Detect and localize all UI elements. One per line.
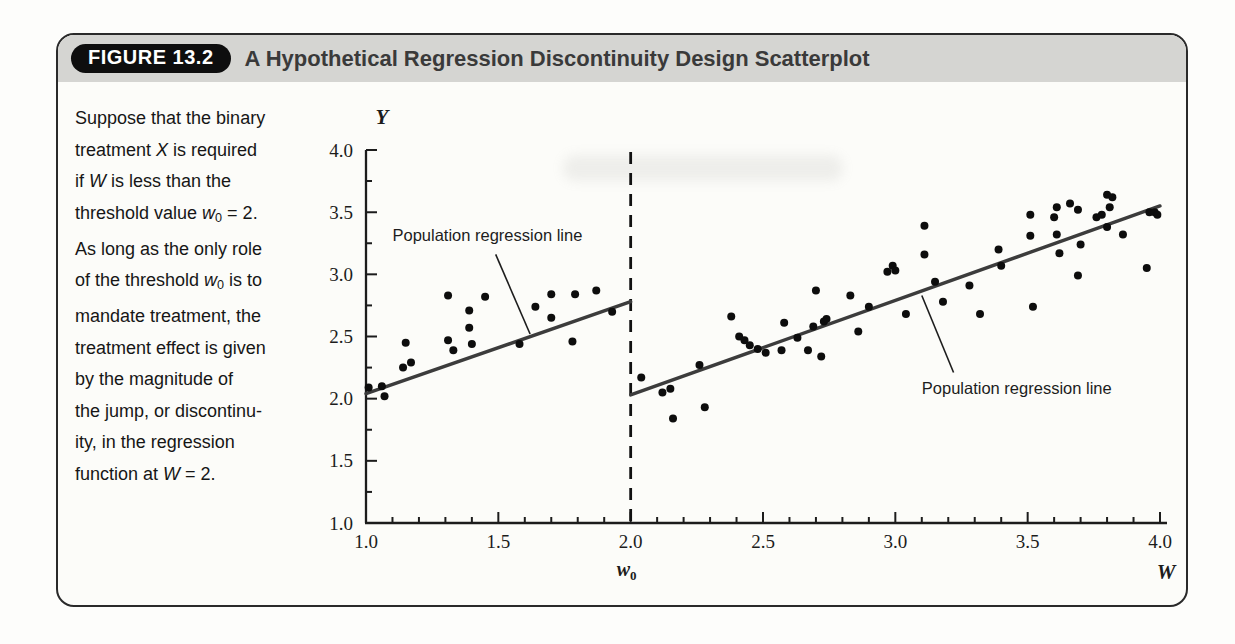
figure-title: A Hypothetical Regression Discontinuity …	[245, 46, 870, 72]
scatter-point	[931, 278, 939, 286]
scatter-point	[1108, 193, 1116, 201]
caption-segment: w	[204, 270, 217, 290]
scatter-point	[669, 415, 677, 423]
x-tick-label: 4.0	[1148, 531, 1172, 552]
scatter-point	[727, 313, 735, 321]
scatter-point	[571, 290, 579, 298]
scatter-point	[637, 374, 645, 382]
scatter-point	[1029, 303, 1037, 311]
scatter-point	[531, 303, 539, 311]
scatter-point	[1153, 211, 1161, 219]
annotation-pointer-1	[922, 295, 954, 372]
scatter-point	[378, 382, 386, 390]
y-tick-label: 2.0	[329, 388, 353, 409]
figure-number-badge: FIGURE 13.2	[71, 44, 231, 73]
scatter-point	[547, 314, 555, 322]
x-tick-label: 1.5	[486, 531, 510, 552]
y-tick-label: 1.0	[329, 513, 353, 534]
x-tick-label: 3.5	[1016, 531, 1040, 552]
scatter-point	[465, 324, 473, 332]
scatter-point	[666, 385, 674, 393]
scatter-point	[1050, 213, 1058, 221]
scatter-point	[804, 346, 812, 354]
scatter-point	[444, 291, 452, 299]
scatter-point	[854, 328, 862, 336]
scatter-point	[1119, 231, 1127, 239]
y-tick-label: 3.0	[329, 264, 353, 285]
scatter-point	[1143, 264, 1151, 272]
scatter-point	[1106, 203, 1114, 211]
annotation-label-1: Population regression line	[922, 379, 1112, 397]
x-tick-label: 2.0	[619, 531, 643, 552]
scatter-point	[449, 346, 457, 354]
scatter-point	[1055, 249, 1063, 257]
scatter-point	[965, 282, 973, 290]
scatter-point	[1053, 231, 1061, 239]
annotation-label-0: Population regression line	[392, 226, 582, 244]
scatter-point	[399, 364, 407, 372]
scatter-point	[365, 383, 373, 391]
scatter-point	[481, 293, 489, 301]
x-tick-label: 3.0	[883, 531, 907, 552]
scatter-point	[746, 341, 754, 349]
scatter-point	[1098, 211, 1106, 219]
scatter-point	[997, 262, 1005, 270]
y-tick-label: 2.5	[329, 326, 353, 347]
scatter-point	[817, 352, 825, 360]
x-tick-label: 2.5	[751, 531, 775, 552]
scatter-point	[1074, 206, 1082, 214]
x-tick-label: 1.0	[354, 531, 378, 552]
figure-box: FIGURE 13.2 A Hypothetical Regression Di…	[56, 33, 1188, 607]
scatter-point	[809, 323, 817, 331]
y-tick-label: 1.5	[329, 450, 353, 471]
scatter-point	[778, 346, 786, 354]
scatter-point	[846, 291, 854, 299]
scatter-point	[995, 245, 1003, 253]
caption-segment: w	[202, 203, 215, 223]
scatter-point	[754, 345, 762, 353]
regression-line-right_segment	[631, 206, 1160, 395]
scatter-point	[1103, 223, 1111, 231]
scatter-point	[381, 392, 389, 400]
scatter-point	[920, 222, 928, 230]
scatter-point	[658, 388, 666, 396]
threshold-label: w0	[617, 558, 637, 583]
scatter-point	[762, 349, 770, 357]
scatter-point	[1053, 203, 1061, 211]
rdd-scatterplot: 1.01.52.02.53.03.54.01.01.52.02.53.03.54…	[298, 92, 1188, 592]
scatter-point	[568, 337, 576, 345]
scatter-point	[976, 310, 984, 318]
scatter-point	[812, 286, 820, 294]
y-tick-label: 3.5	[329, 202, 353, 223]
scatter-point	[780, 319, 788, 327]
scatter-point	[865, 303, 873, 311]
scatter-point	[1066, 199, 1074, 207]
scatter-point	[608, 308, 616, 316]
y-tick-label: 4.0	[329, 140, 353, 161]
scatter-point	[407, 359, 415, 367]
caption-segment: W	[89, 171, 106, 191]
scatter-point	[402, 339, 410, 347]
x-axis-label: W	[1157, 560, 1177, 584]
figure-header: FIGURE 13.2 A Hypothetical Regression Di…	[58, 35, 1186, 82]
scatter-point	[1026, 211, 1034, 219]
regression-line-left_segment	[366, 302, 631, 394]
scatter-point	[547, 290, 555, 298]
scatter-point	[444, 336, 452, 344]
scatter-point	[1077, 240, 1085, 248]
scatter-point	[695, 361, 703, 369]
caption-segment: = 2.	[180, 464, 216, 484]
scatter-point	[516, 340, 524, 348]
scatter-point	[891, 267, 899, 275]
scatter-point	[920, 250, 928, 258]
scatter-point	[902, 310, 910, 318]
caption-segment: is to mandate treatment, the treatment e…	[75, 270, 266, 484]
scatter-point	[592, 286, 600, 294]
y-axis-label: Y	[376, 105, 391, 129]
scatter-point	[465, 306, 473, 314]
scatter-point	[793, 334, 801, 342]
scatter-point	[1074, 272, 1082, 280]
scatter-point	[939, 298, 947, 306]
scatter-point	[468, 340, 476, 348]
scatter-point	[823, 315, 831, 323]
